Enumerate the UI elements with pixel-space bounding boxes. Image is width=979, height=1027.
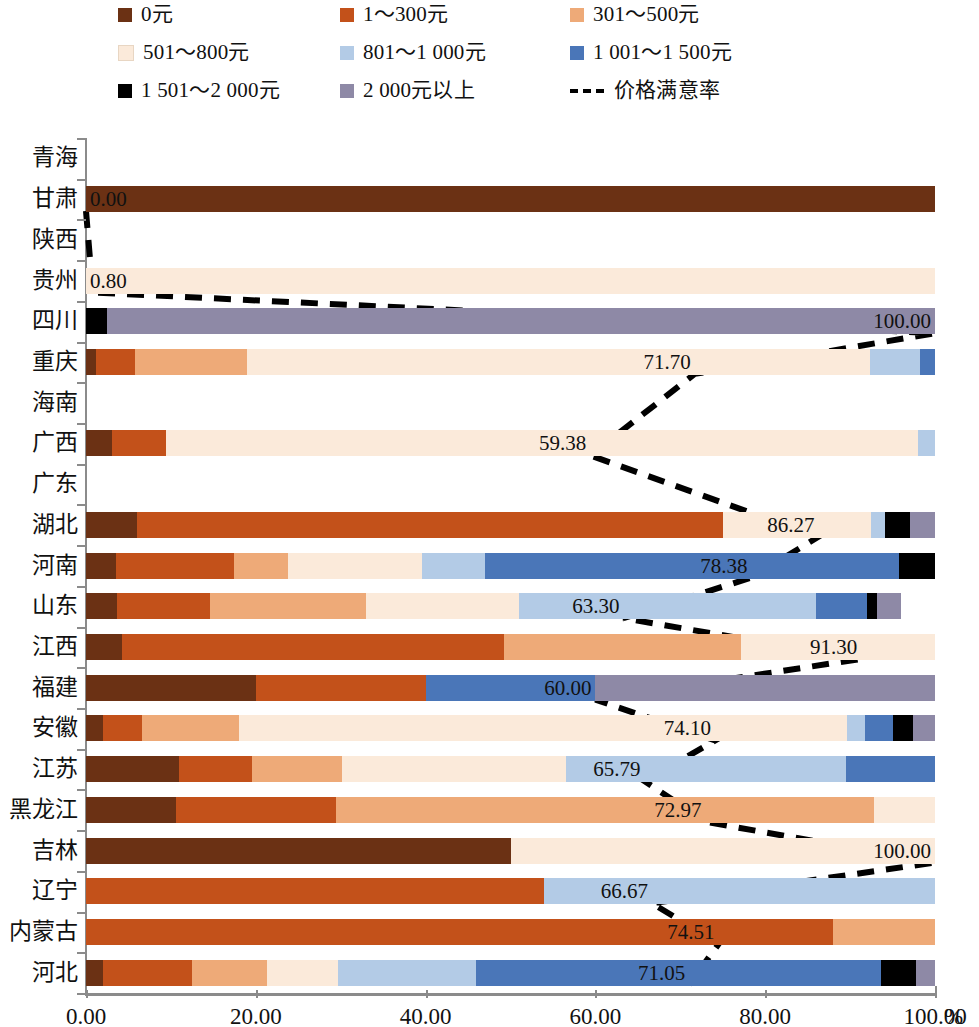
bar-segment-501～800元 [247, 349, 869, 375]
bar-row-辽宁 [86, 878, 935, 904]
y-axis-label-14: 安徽 [0, 716, 78, 739]
y-axis-tick [77, 545, 86, 547]
bar-segment-1～300元 [103, 960, 192, 986]
bar-segment-301～500元 [135, 349, 247, 375]
legend-item-1501-2000yuan: 1 501～2 000元 [118, 80, 280, 101]
y-axis-label-10: 河南 [0, 554, 78, 577]
bar-segment-301～500元 [210, 593, 366, 619]
y-axis-tick [77, 667, 86, 669]
bar-segment-1～300元 [179, 756, 252, 782]
bar-row-四川 [86, 308, 935, 334]
bar-segment-0元 [86, 675, 256, 701]
y-axis-label-7: 广西 [0, 431, 78, 454]
legend-row: 1 501～2 000元 2 000元以上 价格满意率 [0, 80, 979, 112]
bar-segment-1～300元 [176, 797, 336, 823]
bar-segment-501～800元 [366, 593, 519, 619]
satisfaction-value-label: 78.38 [659, 553, 747, 579]
y-axis-tick [77, 260, 86, 262]
legend-swatch-icon [570, 8, 584, 22]
bar-segment-801～1 000元 [847, 715, 866, 741]
y-axis-label-1: 甘肃 [0, 187, 78, 210]
legend-label: 501～800元 [143, 42, 250, 63]
x-axis-tick [595, 990, 597, 998]
bar-segment-301～500元 [252, 756, 342, 782]
y-axis-tick [77, 504, 86, 506]
bar-segment-2 000元以上 [877, 593, 901, 619]
bar-segment-0元 [86, 430, 112, 456]
dashed-line-icon [570, 89, 604, 93]
y-axis-tick [77, 952, 86, 954]
satisfaction-value-label: 0.00 [90, 186, 127, 212]
x-axis-label-5: 100.00 [903, 1004, 966, 1027]
legend-label: 价格满意率 [614, 80, 720, 101]
y-axis-label-3: 贵州 [0, 269, 78, 292]
y-axis-tick [77, 179, 86, 181]
bar-segment-0元 [86, 838, 511, 864]
satisfaction-value-label: 100.00 [835, 308, 931, 334]
legend-swatch-icon [340, 46, 354, 60]
legend-item-801-1000yuan: 801～1 000元 [340, 42, 486, 63]
legend-swatch-icon [570, 46, 584, 60]
y-axis-tick [77, 586, 86, 588]
bar-segment-801～1 000元 [918, 430, 935, 456]
y-axis-label-12: 江西 [0, 635, 78, 658]
bar-segment-1 501～2 000元 [899, 553, 935, 579]
x-axis-label-0: 0.00 [66, 1004, 106, 1027]
satisfaction-value-label: 74.51 [627, 919, 715, 945]
y-axis-labels: 青海甘肃陕西贵州四川重庆海南广西广东湖北河南山东江西福建安徽江苏黑龙江吉林辽宁内… [0, 124, 78, 979]
bar-segment-1～300元 [122, 634, 504, 660]
satisfaction-value-label: 91.30 [769, 634, 857, 660]
legend-row: 501～800元 801～1 000元 1 001～1 500元 [0, 42, 979, 74]
y-axis-label-17: 吉林 [0, 839, 78, 862]
bar-segment-301～500元 [504, 634, 742, 660]
legend-swatch-icon [340, 8, 354, 22]
bar-segment-801～1 000元 [422, 553, 485, 579]
bar-row-重庆 [86, 349, 935, 375]
y-axis-tick [77, 789, 86, 791]
legend-item-1001-1500yuan: 1 001～1 500元 [570, 42, 732, 63]
bar-segment-0元 [86, 593, 117, 619]
y-axis-label-19: 内蒙古 [0, 920, 78, 943]
y-axis-tick [77, 342, 86, 344]
x-axis-tick [256, 990, 258, 998]
bar-segment-0元 [86, 512, 137, 538]
x-axis-label-1: 20.00 [230, 1004, 282, 1027]
satisfaction-value-label: 63.30 [531, 593, 619, 619]
y-axis-label-18: 辽宁 [0, 879, 78, 902]
satisfaction-value-label: 86.27 [726, 512, 814, 538]
satisfaction-value-label: 72.97 [614, 797, 702, 823]
satisfaction-value-label: 59.38 [498, 430, 586, 456]
bar-segment-1 501～2 000元 [885, 512, 910, 538]
chart-legend: 0元 1～300元 301～500元 501～800元 801～1 000元 1… [0, 0, 979, 124]
bar-row-黑龙江 [86, 797, 935, 823]
x-axis-label-2: 40.00 [400, 1004, 452, 1027]
satisfaction-value-label: 60.00 [503, 675, 591, 701]
y-axis-tick [77, 749, 86, 751]
bar-row-江苏 [86, 756, 935, 782]
y-axis-label-16: 黑龙江 [0, 798, 78, 821]
bar-segment-2 000元以上 [916, 960, 935, 986]
y-axis-label-13: 福建 [0, 676, 78, 699]
bar-row-安徽 [86, 715, 935, 741]
legend-label: 301～500元 [593, 4, 700, 25]
satisfaction-value-label: 71.70 [603, 349, 691, 375]
bar-segment-1 001～1 500元 [920, 349, 935, 375]
legend-label: 2 000元以上 [363, 80, 475, 101]
bar-segment-1～300元 [117, 593, 210, 619]
x-axis-tick [765, 990, 767, 998]
bar-segment-1～300元 [137, 512, 723, 538]
bar-segment-1～300元 [256, 675, 426, 701]
bar-segment-2 000元以上 [595, 675, 935, 701]
legend-swatch-icon [118, 45, 134, 61]
legend-label: 0元 [141, 4, 173, 25]
y-axis-tick [77, 871, 86, 873]
plot-area: 0.000.80100.0071.7059.3886.2778.3863.309… [86, 138, 935, 993]
bar-segment-501～800元 [874, 797, 935, 823]
y-axis-label-20: 河北 [0, 961, 78, 984]
satisfaction-value-label: 74.10 [623, 715, 711, 741]
legend-item-501-800yuan: 501～800元 [118, 42, 250, 63]
bar-segment-1～300元 [86, 878, 544, 904]
bar-row-甘肃 [86, 186, 935, 212]
bar-segment-0元 [86, 186, 935, 212]
y-axis-label-9: 湖北 [0, 513, 78, 536]
